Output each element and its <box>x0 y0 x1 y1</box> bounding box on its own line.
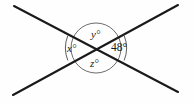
angle-label-y: y° <box>91 29 100 40</box>
angle-label-x: x° <box>67 43 76 54</box>
diagram-canvas <box>0 0 194 103</box>
angle-label-z: z° <box>90 58 99 69</box>
angle-diagram-figure: x° y° z° 48° <box>0 0 194 103</box>
figure-background <box>0 0 194 103</box>
angle-label-48: 48° <box>111 42 127 54</box>
